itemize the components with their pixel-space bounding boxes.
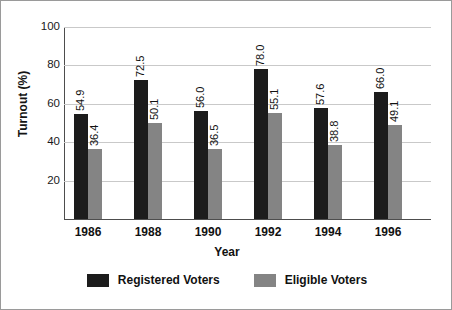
bar-label-1988-registered: 72.5 — [135, 55, 146, 76]
bar-1994-eligible[interactable] — [328, 145, 342, 219]
legend-swatch-eligible-voters — [254, 274, 276, 287]
bar-label-1992-registered: 78.0 — [255, 45, 266, 66]
bar-label-1992-eligible: 55.1 — [269, 89, 280, 110]
y-tick-20: 20 — [20, 175, 60, 186]
bar-label-1986-registered: 54.9 — [75, 89, 86, 110]
bar-label-1996-registered: 66.0 — [375, 68, 386, 89]
bar-group-1990: 56.036.5 — [194, 27, 222, 219]
chart-legend: Registered Voters Eligible Voters — [1, 273, 452, 287]
bar-1988-registered[interactable] — [134, 80, 148, 219]
plot-area: 54.936.472.550.156.036.578.055.157.638.8… — [64, 27, 431, 219]
bar-1996-eligible[interactable] — [388, 125, 402, 219]
x-tick-1986: 1986 — [58, 225, 118, 239]
bar-1996-registered[interactable] — [374, 92, 388, 219]
x-tick-1994: 1994 — [298, 225, 358, 239]
bar-group-1986: 54.936.4 — [74, 27, 102, 219]
legend-item-registered-voters: Registered Voters — [87, 273, 220, 287]
bar-label-1988-eligible: 50.1 — [149, 98, 160, 119]
x-tick-1988: 1988 — [118, 225, 178, 239]
bar-group-1988: 72.550.1 — [134, 27, 162, 219]
x-tick-1990: 1990 — [178, 225, 238, 239]
chart-frame: 100 80 60 40 20 Turnout (%) 54.936.472.5… — [0, 0, 452, 310]
bar-1992-eligible[interactable] — [268, 113, 282, 219]
bar-label-1996-eligible: 49.1 — [389, 100, 400, 121]
bar-group-1994: 57.638.8 — [314, 27, 342, 219]
x-tick-1996: 1996 — [358, 225, 418, 239]
legend-label-eligible-voters: Eligible Voters — [285, 273, 367, 287]
y-tick-100: 100 — [20, 21, 60, 32]
bar-1994-registered[interactable] — [314, 108, 328, 219]
bar-label-1990-eligible: 36.5 — [209, 125, 220, 146]
bar-label-1994-registered: 57.6 — [315, 84, 326, 105]
x-tick-1992: 1992 — [238, 225, 298, 239]
bar-1990-registered[interactable] — [194, 111, 208, 219]
bar-label-1986-eligible: 36.4 — [89, 125, 100, 146]
bar-1986-registered[interactable] — [74, 114, 88, 219]
bar-1990-eligible[interactable] — [208, 149, 222, 219]
legend-swatch-registered-voters — [87, 274, 109, 287]
bar-label-1994-eligible: 38.8 — [329, 120, 340, 141]
bar-group-1992: 78.055.1 — [254, 27, 282, 219]
legend-item-eligible-voters: Eligible Voters — [254, 273, 367, 287]
bar-1992-registered[interactable] — [254, 69, 268, 219]
bar-group-1996: 66.049.1 — [374, 27, 402, 219]
bar-1988-eligible[interactable] — [148, 123, 162, 219]
x-axis-title: Year — [1, 245, 452, 259]
x-axis-line — [64, 219, 431, 220]
bar-label-1990-registered: 56.0 — [195, 87, 206, 108]
bar-1986-eligible[interactable] — [88, 149, 102, 219]
legend-label-registered-voters: Registered Voters — [118, 273, 220, 287]
y-axis-title: Turnout (%) — [16, 44, 30, 164]
